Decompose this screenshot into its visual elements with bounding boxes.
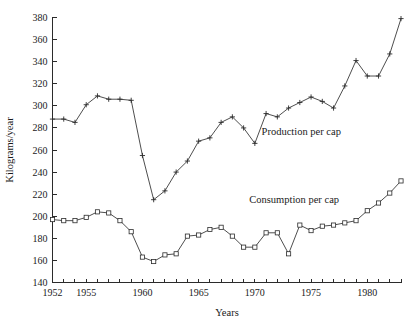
- x-tick-label: 1970: [245, 287, 265, 298]
- data-point-marker: [107, 211, 111, 215]
- data-point-marker: [388, 191, 392, 195]
- series-polyline: [53, 19, 402, 200]
- data-point-marker: [140, 255, 144, 259]
- y-tick-label: 360: [33, 34, 48, 45]
- x-tick-label: 1960: [132, 287, 152, 298]
- x-tick-label: 1980: [357, 287, 377, 298]
- data-point-marker: [309, 229, 313, 233]
- data-point-marker: [242, 245, 246, 249]
- series-label-2: Consumption per cap: [249, 194, 339, 205]
- data-point-marker: [331, 223, 335, 227]
- data-point-marker: [163, 253, 167, 257]
- series-polyline: [53, 181, 402, 262]
- x-tick-label: 1965: [189, 287, 209, 298]
- x-tick-label: 1975: [301, 287, 321, 298]
- data-point-marker: [95, 210, 99, 214]
- chart-page: 140160180200220240260280300320340360380 …: [0, 0, 413, 324]
- y-tick-label: 380: [33, 12, 48, 23]
- series-2: [50, 179, 403, 264]
- data-point-marker: [275, 231, 279, 235]
- y-tick-label: 240: [33, 167, 48, 178]
- data-point-marker: [253, 245, 257, 249]
- series-1: [50, 16, 404, 202]
- y-tick-label: 260: [33, 145, 48, 156]
- data-point-marker: [197, 233, 201, 237]
- y-tick-label: 300: [33, 100, 48, 111]
- data-point-marker: [84, 215, 88, 219]
- x-tick-label: 1955: [76, 287, 96, 298]
- data-point-marker: [73, 219, 77, 223]
- series-layer: [50, 16, 404, 264]
- data-point-marker: [219, 225, 223, 229]
- data-point-marker: [343, 221, 347, 225]
- data-point-marker: [298, 223, 302, 227]
- y-tick-label: 220: [33, 189, 48, 200]
- data-point-marker: [50, 217, 54, 221]
- data-point-marker: [264, 231, 268, 235]
- data-point-marker: [230, 234, 234, 238]
- data-point-marker: [152, 259, 156, 263]
- data-point-marker: [376, 201, 380, 205]
- data-point-marker: [118, 219, 122, 223]
- y-tick-label: 320: [33, 78, 48, 89]
- line-chart: 140160180200220240260280300320340360380 …: [0, 0, 413, 324]
- y-tick-label: 180: [33, 233, 48, 244]
- data-point-marker: [320, 224, 324, 228]
- y-axis-title: Kilograms/year: [4, 117, 15, 183]
- y-tick-label: 280: [33, 122, 48, 133]
- axes-group: [53, 17, 402, 283]
- y-tick-label: 160: [33, 255, 48, 266]
- data-point-marker: [129, 230, 133, 234]
- data-point-marker: [174, 252, 178, 256]
- y-tick-label: 200: [33, 211, 48, 222]
- x-axis-ticks: 1952195519601965197019751980: [43, 279, 402, 298]
- series-label-1: Production per cap: [262, 126, 341, 137]
- x-axis-title: Years: [215, 307, 238, 318]
- y-tick-label: 340: [33, 56, 48, 67]
- data-point-marker: [62, 219, 66, 223]
- x-tick-label: 1952: [43, 287, 63, 298]
- data-point-marker: [286, 252, 290, 256]
- series-annotations: Production per capConsumption per cap: [249, 126, 341, 205]
- data-point-marker: [354, 219, 358, 223]
- data-point-marker: [208, 227, 212, 231]
- data-point-marker: [365, 209, 369, 213]
- data-point-marker: [399, 179, 403, 183]
- data-point-marker: [185, 234, 189, 238]
